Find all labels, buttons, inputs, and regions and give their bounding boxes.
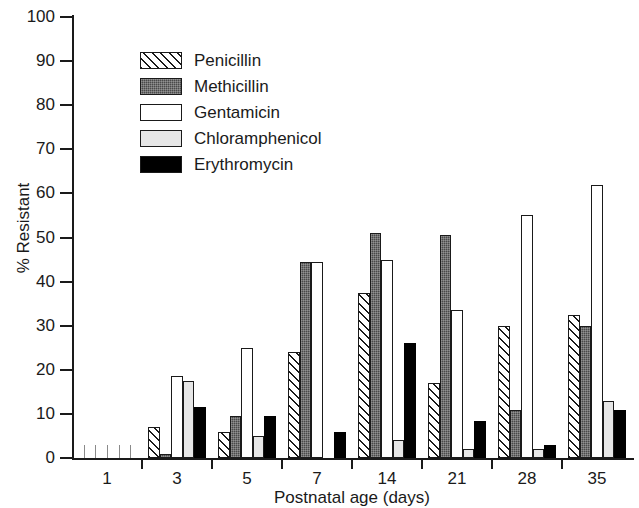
y-axis-tick-label: 20 bbox=[9, 361, 55, 378]
y-axis-tick bbox=[60, 60, 72, 62]
bar bbox=[171, 376, 183, 458]
y-axis-tick bbox=[60, 413, 72, 415]
bar bbox=[300, 262, 312, 458]
bar bbox=[253, 436, 265, 458]
bar bbox=[614, 410, 626, 459]
bar bbox=[533, 449, 545, 458]
y-axis-tick-label: 100 bbox=[9, 8, 55, 25]
bar bbox=[148, 427, 160, 458]
y-axis-tick bbox=[60, 325, 72, 327]
bar bbox=[404, 343, 416, 458]
legend-swatch-gentamicin-icon bbox=[140, 104, 182, 121]
x-axis-tick-label: 28 bbox=[492, 470, 562, 488]
y-axis-tick-label: 80 bbox=[9, 96, 55, 113]
x-axis-tick-label: 14 bbox=[352, 470, 422, 488]
bar bbox=[358, 293, 370, 458]
legend-swatch-chloramphenicol-icon bbox=[140, 130, 182, 147]
legend-item: Erythromycin bbox=[140, 151, 322, 177]
y-axis-tick-label: 30 bbox=[9, 317, 55, 334]
y-axis-tick bbox=[60, 148, 72, 150]
legend-swatch-erythromycin-icon bbox=[140, 156, 182, 173]
bar bbox=[510, 410, 522, 459]
bar-zero-marker bbox=[95, 445, 96, 458]
x-axis-tick bbox=[281, 458, 283, 469]
legend-label: Gentamicin bbox=[194, 104, 280, 121]
bar bbox=[451, 310, 463, 458]
x-axis-tick bbox=[491, 458, 493, 469]
bar bbox=[591, 185, 603, 458]
bar bbox=[183, 381, 195, 458]
x-axis-tick-label: 3 bbox=[142, 470, 212, 488]
bar bbox=[381, 260, 393, 458]
bar-zero-marker bbox=[107, 445, 108, 458]
legend-label: Erythromycin bbox=[194, 156, 293, 173]
bar bbox=[230, 416, 242, 458]
legend-swatch-penicillin-icon bbox=[140, 52, 182, 69]
bar bbox=[194, 407, 206, 458]
bar bbox=[241, 348, 253, 458]
y-axis-tick bbox=[60, 237, 72, 239]
bar bbox=[370, 233, 382, 458]
bar bbox=[603, 401, 615, 458]
x-axis-tick-label: 1 bbox=[72, 470, 142, 488]
y-axis-tick-label: 10 bbox=[9, 405, 55, 422]
x-axis-tick-label: 21 bbox=[422, 470, 492, 488]
bar bbox=[498, 326, 510, 458]
bar bbox=[160, 454, 172, 458]
legend-item: Gentamicin bbox=[140, 99, 322, 125]
bar bbox=[580, 326, 592, 458]
bar bbox=[311, 262, 323, 458]
bar bbox=[440, 235, 452, 458]
bar bbox=[218, 432, 230, 458]
bar bbox=[544, 445, 556, 458]
chart-legend: PenicillinMethicillinGentamicinChloramph… bbox=[140, 47, 322, 177]
bar bbox=[393, 440, 405, 458]
y-axis-tick bbox=[60, 281, 72, 283]
x-axis-tick bbox=[561, 458, 563, 469]
y-axis-title: % Resistant bbox=[14, 158, 34, 298]
y-axis-tick bbox=[60, 104, 72, 106]
y-axis-tick bbox=[60, 192, 72, 194]
bar bbox=[474, 421, 486, 458]
bar-zero-marker bbox=[130, 445, 131, 458]
legend-label: Chloramphenicol bbox=[194, 130, 322, 147]
legend-swatch-methicillin-icon bbox=[140, 78, 182, 95]
x-axis-tick bbox=[421, 458, 423, 469]
y-axis-tick bbox=[60, 457, 72, 459]
bar bbox=[288, 352, 300, 458]
bar bbox=[428, 383, 440, 458]
y-axis-tick-label: 70 bbox=[9, 140, 55, 157]
legend-label: Penicillin bbox=[194, 52, 261, 69]
legend-label: Methicillin bbox=[194, 78, 269, 95]
y-axis-tick-label: 90 bbox=[9, 52, 55, 69]
bar-zero-marker bbox=[84, 445, 85, 458]
y-axis-tick bbox=[60, 369, 72, 371]
bar bbox=[521, 215, 533, 458]
x-axis-title: Postnatal age (days) bbox=[72, 488, 632, 508]
x-axis-line bbox=[72, 458, 634, 460]
y-axis-tick-label: 0 bbox=[9, 449, 55, 466]
x-axis-tick bbox=[141, 458, 143, 469]
x-axis-tick-label: 5 bbox=[212, 470, 282, 488]
bar bbox=[463, 449, 475, 458]
x-axis-tick bbox=[351, 458, 353, 469]
legend-item: Methicillin bbox=[140, 73, 322, 99]
legend-item: Penicillin bbox=[140, 47, 322, 73]
bar bbox=[264, 416, 276, 458]
x-axis-tick bbox=[211, 458, 213, 469]
x-axis-tick-label: 35 bbox=[562, 470, 632, 488]
bar bbox=[334, 432, 346, 458]
bar-chart: 0102030405060708090100 135714212835 % Re… bbox=[0, 0, 639, 508]
y-axis-tick bbox=[60, 16, 72, 18]
bar bbox=[568, 315, 580, 458]
bar-zero-marker bbox=[119, 445, 120, 458]
x-axis-tick-label: 7 bbox=[282, 470, 352, 488]
legend-item: Chloramphenicol bbox=[140, 125, 322, 151]
